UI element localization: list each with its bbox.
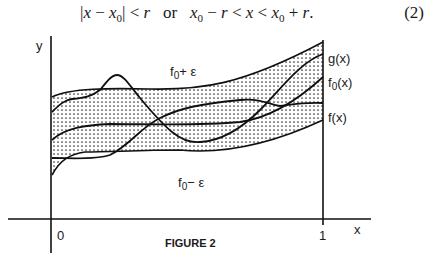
y-axis-label: y: [36, 38, 43, 53]
x-tick-1: 1: [319, 228, 326, 243]
lower-band-label: f0− ε: [178, 175, 204, 192]
f0-label: f0(x): [328, 75, 352, 92]
x-tick-0: 0: [57, 228, 64, 243]
f-label: f(x): [328, 110, 347, 125]
figure-2: y x 0 1 f0+ ε f0− ε g(x) f0(x) f(x) FIGU…: [0, 0, 438, 265]
x-axis-label: x: [354, 222, 361, 237]
g-label: g(x): [328, 51, 350, 66]
upper-band-label: f0+ ε: [170, 64, 196, 81]
figure-caption: FIGURE 2: [165, 237, 216, 249]
